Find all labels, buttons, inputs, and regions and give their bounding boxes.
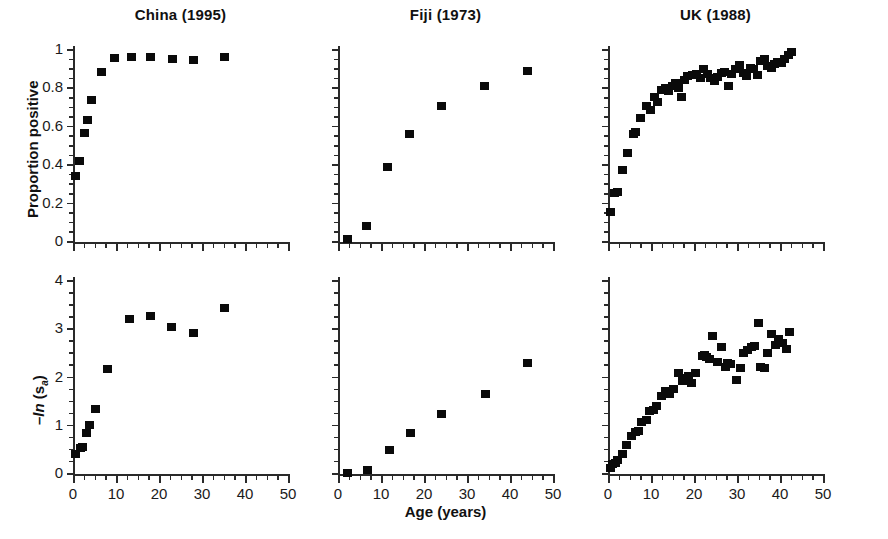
y-tick-top-left <box>69 155 73 157</box>
data-point <box>189 56 198 64</box>
y-tick-bottom-left <box>69 413 73 415</box>
x-tick-label: 50 <box>798 485 848 502</box>
data-point <box>437 410 446 418</box>
x-tick-bottom-middle <box>553 476 555 483</box>
y-axis-title-ln: ln <box>30 403 47 416</box>
y-tick-top-middle <box>334 183 338 185</box>
data-point <box>362 222 371 230</box>
x-tick-bottom-left <box>267 476 269 480</box>
x-tick-bottom-right <box>673 476 675 480</box>
data-point <box>691 369 700 377</box>
x-tick-top-middle <box>510 244 512 251</box>
data-point <box>78 443 87 451</box>
x-tick-bottom-right <box>640 476 642 480</box>
y-tick-bottom-left <box>67 280 73 282</box>
x-tick-top-middle <box>553 244 555 251</box>
data-point <box>652 402 661 410</box>
data-point <box>97 68 106 76</box>
data-point <box>480 82 489 90</box>
x-tick-top-left <box>213 244 215 248</box>
data-point <box>785 328 794 336</box>
x-tick-bottom-left <box>213 476 215 480</box>
y-tick-top-left <box>69 97 73 99</box>
x-tick-top-right <box>769 244 771 248</box>
y-tick-bottom-right <box>602 377 608 379</box>
data-point <box>383 163 392 171</box>
x-tick-bottom-left <box>95 476 97 480</box>
data-point <box>677 93 686 101</box>
x-tick-bottom-right <box>694 476 696 483</box>
y-tick-bottom-middle <box>334 304 338 306</box>
data-point <box>674 84 683 92</box>
y-tick-bottom-middle <box>332 377 338 379</box>
x-tick-top-left <box>234 244 236 248</box>
data-point <box>125 315 134 323</box>
data-point <box>523 359 532 367</box>
x-tick-bottom-middle <box>360 476 362 480</box>
y-tick-label: 0 <box>17 464 63 481</box>
y-axis-line-top-left <box>73 46 75 242</box>
y-tick-top-left <box>67 203 73 205</box>
y-tick-bottom-middle <box>332 280 338 282</box>
x-tick-bottom-left <box>73 476 75 483</box>
y-tick-label: 4 <box>17 271 63 288</box>
x-tick-bottom-left <box>84 476 86 480</box>
x-tick-top-right <box>651 244 653 251</box>
x-tick-bottom-right <box>812 476 814 480</box>
y-tick-bottom-middle <box>334 292 338 294</box>
y-tick-bottom-middle <box>334 352 338 354</box>
x-tick-top-right <box>780 244 782 251</box>
x-tick-bottom-middle <box>370 476 372 480</box>
x-tick-top-right <box>683 244 685 248</box>
y-tick-top-left <box>69 222 73 224</box>
x-tick-bottom-right <box>651 476 653 483</box>
x-tick-bottom-right <box>780 476 782 483</box>
x-tick-top-middle <box>413 244 415 248</box>
y-tick-top-middle <box>332 164 338 166</box>
x-tick-bottom-left <box>148 476 150 480</box>
y-tick-top-right <box>602 49 608 51</box>
y-tick-bottom-right <box>604 401 608 403</box>
y-tick-top-right <box>604 222 608 224</box>
data-point <box>103 365 112 373</box>
x-tick-bottom-right <box>769 476 771 480</box>
x-tick-bottom-left <box>127 476 129 480</box>
y-tick-top-right <box>602 126 608 128</box>
y-tick-bottom-left <box>69 389 73 391</box>
y-tick-top-left <box>67 126 73 128</box>
x-tick-top-left <box>224 244 226 248</box>
x-tick-bottom-right <box>619 476 621 480</box>
x-tick-top-left <box>127 244 129 248</box>
x-tick-bottom-left <box>105 476 107 480</box>
x-tick-bottom-middle <box>478 476 480 480</box>
y-tick-bottom-right <box>604 449 608 451</box>
y-tick-top-left <box>69 231 73 233</box>
y-tick-top-right <box>604 78 608 80</box>
x-tick-top-middle <box>499 244 501 248</box>
x-tick-top-right <box>748 244 750 248</box>
x-tick-bottom-middle <box>489 476 491 480</box>
x-tick-top-left <box>159 244 161 251</box>
data-point <box>85 421 94 429</box>
y-axis-title-close-paren: ) <box>30 375 47 380</box>
y-tick-top-left <box>67 164 73 166</box>
x-tick-bottom-middle <box>424 476 426 483</box>
x-tick-top-left <box>191 244 193 248</box>
data-point <box>343 235 352 243</box>
x-tick-top-right <box>823 244 825 251</box>
y-tick-bottom-middle <box>334 413 338 415</box>
y-axis-title-neg-log-s-a: –ln (sa) <box>30 375 50 425</box>
y-tick-top-left <box>69 116 73 118</box>
x-tick-bottom-middle <box>510 476 512 483</box>
x-tick-top-left <box>105 244 107 248</box>
x-tick-top-left <box>256 244 258 248</box>
x-tick-bottom-left <box>181 476 183 480</box>
y-tick-top-left <box>69 135 73 137</box>
y-tick-label: 3 <box>17 319 63 336</box>
y-tick-bottom-left <box>69 437 73 439</box>
data-point <box>168 55 177 63</box>
x-tick-top-right <box>737 244 739 251</box>
data-point <box>220 53 229 61</box>
y-tick-label: 0 <box>17 232 63 249</box>
y-tick-bottom-middle <box>334 364 338 366</box>
